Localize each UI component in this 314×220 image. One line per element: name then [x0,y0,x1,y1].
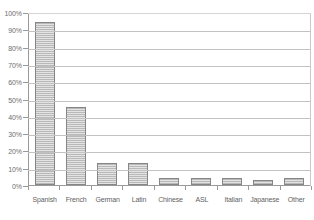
bar [97,163,117,185]
bar-slot [60,14,91,185]
y-axis-tick-label: 30% [0,131,22,138]
plot-area [28,13,311,186]
bar [253,180,273,185]
x-axis-category-labels: SpanishFrenchGermanLatinChineseASLItalia… [29,196,312,203]
bar [35,22,55,185]
bar-slot [279,14,310,185]
bar-slot [154,14,185,185]
bar-chart: 100%90%80%70%60%50%40%30%20%10%0% Spanis… [0,0,314,220]
bar-series [29,14,310,185]
x-axis-tick-mark [59,186,60,190]
gridline [28,83,310,84]
x-axis-category-label: German [92,196,123,203]
y-axis-tick-mark [23,151,28,152]
x-axis-tick-mark [217,186,218,190]
bar-slot [123,14,154,185]
x-axis-tick-mark [280,186,281,190]
gridline [28,170,310,171]
bar-slot [29,14,60,185]
y-axis-tick-mark [23,100,28,101]
x-axis-tick-mark [311,186,312,190]
y-axis-tick-mark [23,13,28,14]
x-axis-tick-mark [154,186,155,190]
bar [159,178,179,185]
x-axis-category-label: Latin [123,196,154,203]
x-axis-category-label: Other [281,196,312,203]
bar [222,178,242,185]
gridline [28,49,310,50]
y-axis-tick-mark [23,117,28,118]
y-axis-tick-label: 60% [0,79,22,86]
y-axis-tick-mark [23,134,28,135]
x-axis-category-label: French [60,196,91,203]
gridline [28,66,310,67]
x-axis-tick-mark [122,186,123,190]
x-axis-category-label: Japanese [249,196,280,203]
gridline [28,31,310,32]
bar-slot [185,14,216,185]
y-axis-tick-labels: 100%90%80%70%60%50%40%30%20%10%0% [0,0,24,220]
gridline [28,152,310,153]
bar [128,163,148,185]
bar-slot [216,14,247,185]
x-axis-tick-marks [28,186,311,190]
x-axis-tick-mark [28,186,29,190]
y-axis-tick-mark [23,169,28,170]
y-axis-tick-mark [23,30,28,31]
y-axis-tick-label: 80% [0,44,22,51]
y-axis-tick-label: 0% [0,183,22,190]
x-axis-tick-mark [185,186,186,190]
x-axis-category-label: ASL [186,196,217,203]
y-axis-tick-label: 70% [0,61,22,68]
x-axis-category-label: Italian [218,196,249,203]
bar-slot [248,14,279,185]
gridline [28,118,310,119]
y-axis-tick-mark [23,65,28,66]
y-axis-tick-label: 50% [0,96,22,103]
bar [191,178,211,185]
y-axis-tick-mark [23,48,28,49]
y-axis-tick-label: 10% [0,165,22,172]
x-axis-tick-mark [91,186,92,190]
x-axis-tick-mark [248,186,249,190]
bar-slot [91,14,122,185]
y-axis-tick-label: 40% [0,113,22,120]
gridline [28,135,310,136]
y-axis-tick-label: 90% [0,27,22,34]
y-axis-tick-label: 20% [0,148,22,155]
gridline [28,101,310,102]
y-axis-tick-label: 100% [0,10,22,17]
y-axis-tick-mark [23,186,28,187]
x-axis-category-label: Spanish [29,196,60,203]
x-axis-category-label: Chinese [155,196,186,203]
bar [284,178,304,185]
y-axis-tick-mark [23,82,28,83]
